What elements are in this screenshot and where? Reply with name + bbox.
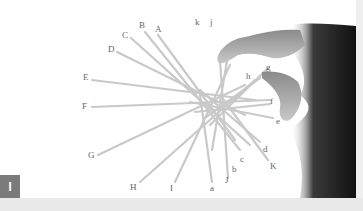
photograph: A B C D E F G H I J K a b c d e f g h j … (0, 0, 356, 198)
label-B: B (139, 21, 145, 30)
label-D: D (108, 45, 115, 54)
label-d: d (263, 145, 268, 154)
reed-strands (92, 32, 273, 182)
label-e: e (276, 117, 280, 126)
label-E: E (83, 73, 89, 82)
label-C: C (122, 31, 128, 40)
label-b: b (232, 165, 237, 174)
label-F: F (82, 102, 87, 111)
label-c: c (240, 155, 244, 164)
label-A: A (155, 25, 162, 34)
right-margin (356, 0, 363, 211)
upper-hand (217, 30, 305, 64)
label-f: f (270, 97, 273, 106)
label-G: G (88, 151, 95, 160)
label-K: K (270, 162, 277, 171)
label-J: J (225, 176, 229, 185)
lower-hand (262, 71, 301, 120)
sleeve (290, 23, 356, 198)
figure-number-badge: I (0, 175, 20, 198)
label-j: j (210, 18, 213, 27)
label-h: h (246, 72, 251, 81)
reed-strands-illustration (0, 0, 356, 198)
label-H: H (130, 183, 137, 192)
label-g: g (266, 63, 271, 72)
label-k: k (195, 18, 200, 27)
bottom-margin (0, 198, 363, 211)
label-a: a (210, 184, 214, 193)
label-I: I (170, 184, 173, 193)
